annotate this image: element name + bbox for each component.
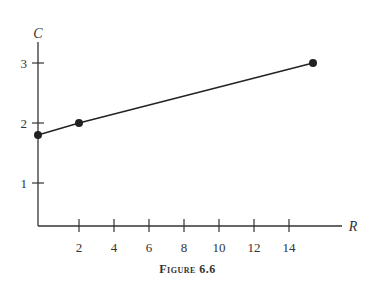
figure-caption: Figure 6.6	[0, 262, 375, 277]
y-tick-labels: 3 2 1	[21, 56, 28, 191]
x-tick-label: 14	[283, 240, 297, 255]
x-tick-labels: 2 4 6 8 10 12 14	[76, 240, 296, 255]
chart: 3 2 1 2 4 6 8 10 12 14 C R	[0, 0, 375, 291]
y-axis-title: C	[33, 26, 43, 41]
x-tick-label: 2	[76, 240, 83, 255]
x-tick-label: 10	[213, 240, 226, 255]
data-point	[75, 119, 83, 127]
data-point	[309, 59, 317, 67]
y-tick-label: 2	[21, 116, 28, 131]
x-tick-label: 12	[248, 240, 261, 255]
x-axis-title: R	[348, 219, 358, 234]
x-tick-label: 8	[181, 240, 188, 255]
x-tick-label: 4	[111, 240, 118, 255]
y-tick-label: 3	[21, 56, 28, 71]
y-tick-label: 1	[21, 176, 28, 191]
x-tick-label: 6	[146, 240, 153, 255]
data-point	[34, 131, 42, 139]
